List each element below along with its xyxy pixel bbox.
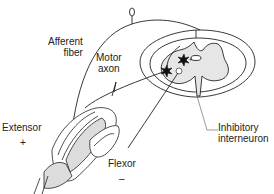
- inhibitory-label-line1: Inhibitory: [218, 122, 269, 133]
- inhibitory-label-line2: interneuron: [218, 133, 269, 144]
- flexor-sign: –: [119, 173, 125, 184]
- afferent-label-line1: Afferent: [48, 36, 83, 47]
- svg-text:+: +: [189, 56, 193, 62]
- inhibitory-interneuron-label: Inhibitory interneuron: [218, 122, 269, 144]
- afferent-fiber-label: Afferent fiber: [48, 36, 83, 58]
- extensor-label: Extensor: [2, 122, 41, 133]
- motor-label-line2: axon: [96, 63, 122, 74]
- motor-label-line1: Motor: [96, 52, 122, 63]
- afferent-label-line2: fiber: [48, 47, 83, 58]
- extensor-sign: +: [20, 137, 26, 148]
- limb: [34, 108, 119, 194]
- flexor-label: Flexor: [108, 158, 136, 169]
- spinal-cord-section: [140, 30, 255, 97]
- motor-axon-label: Motor axon: [96, 52, 122, 74]
- pointer-lines: [197, 96, 218, 130]
- reflex-arc-diagram: +: [0, 0, 274, 194]
